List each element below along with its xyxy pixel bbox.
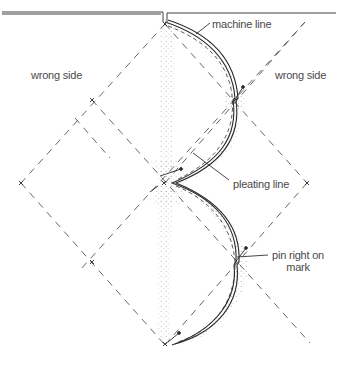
label-pleating-line: pleating line <box>233 178 289 190</box>
label-pin-right-on-mark: pin right on mark <box>268 249 328 273</box>
label-pin-right-on-mark-line2: mark <box>268 261 328 273</box>
label-wrong-side-right: wrong side <box>275 69 326 81</box>
label-machine-line: machine line <box>212 18 271 30</box>
label-wrong-side-left: wrong side <box>31 69 82 81</box>
label-pin-right-on-mark-line1: pin right on <box>268 249 328 261</box>
